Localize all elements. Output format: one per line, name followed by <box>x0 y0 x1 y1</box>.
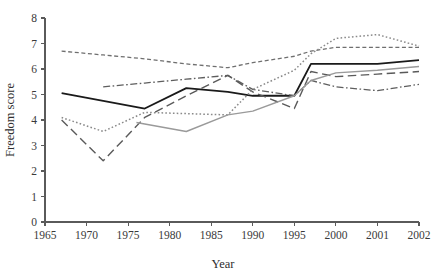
x-tick-label: 1990 <box>241 229 264 241</box>
series-long-dashed <box>62 72 419 161</box>
x-tick-label: 1975 <box>117 229 140 241</box>
y-tick-label: 2 <box>31 165 37 177</box>
x-tick-label: 1985 <box>200 229 223 241</box>
chart-canvas: 012345678 196519701975198019851990199520… <box>0 0 446 275</box>
x-tick-label: 1995 <box>283 229 306 241</box>
y-tick-label: 6 <box>31 63 37 75</box>
y-tick-label: 3 <box>31 140 37 152</box>
x-tick-label: 1965 <box>34 229 57 241</box>
x-tick-label: 1980 <box>158 229 181 241</box>
y-tick-label: 5 <box>31 89 37 101</box>
freedom-score-line-chart: 012345678 196519701975198019851990199520… <box>0 0 446 275</box>
x-axis-title: Year <box>211 257 235 271</box>
y-axis-title: Freedom score <box>3 83 17 157</box>
x-tick-label: 2001 <box>366 229 389 241</box>
y-tick-label: 7 <box>31 38 37 50</box>
x-tick-label: 2000 <box>324 229 347 241</box>
y-axis-tick-group: 012345678 <box>31 12 45 228</box>
y-tick-label: 1 <box>31 191 37 203</box>
x-axis-tick-group: 1965197019751980198519901995200020012002 <box>34 222 431 241</box>
y-tick-label: 0 <box>31 216 37 228</box>
y-tick-label: 8 <box>31 12 37 24</box>
x-tick-label: 2002 <box>408 229 431 241</box>
y-tick-label: 4 <box>31 114 37 126</box>
series-group <box>62 35 419 161</box>
x-tick-label: 1970 <box>75 229 98 241</box>
